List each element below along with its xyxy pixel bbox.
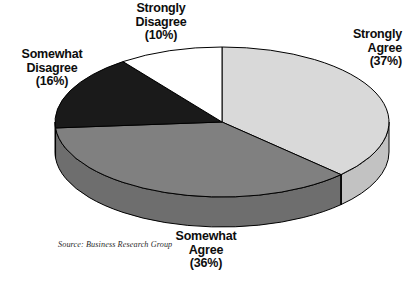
slice-label-somewhat-agree: Somewhat Agree (36%) [146, 230, 266, 271]
slice-label-somewhat-disagree: Somewhat Disagree (16%) [2, 48, 102, 89]
slice-label-strongly-agree: Strongly Agree (37%) [322, 28, 402, 69]
source-attribution: Source: Business Research Group [58, 240, 172, 249]
slice-label-strongly-disagree: Strongly Disagree (10%) [96, 2, 226, 43]
pie-chart-figure: Strongly Disagree (10%) Strongly Agree (… [0, 0, 404, 284]
